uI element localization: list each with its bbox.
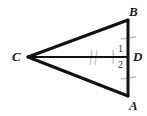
figure-canvas — [0, 0, 147, 116]
vertex-label-d: D — [133, 50, 142, 63]
vertex-label-c: C — [12, 50, 21, 63]
angle-label-2: 2 — [118, 60, 123, 70]
vertex-label-a: A — [129, 99, 138, 112]
triangle-strokes — [28, 20, 128, 96]
angle-label-1: 1 — [118, 44, 123, 54]
vertex-label-b: B — [129, 5, 138, 18]
geometry-figure: B A C D 1 2 — [0, 0, 147, 116]
